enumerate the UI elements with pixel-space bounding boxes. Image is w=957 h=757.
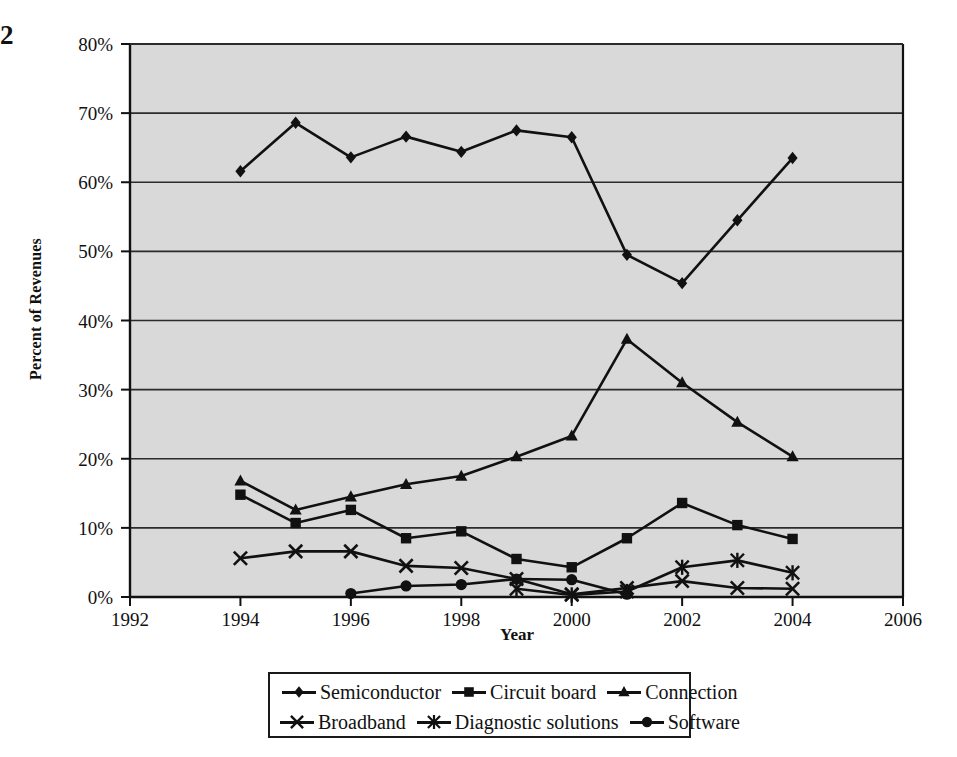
data-point-square: [235, 489, 245, 499]
data-point-square: [622, 533, 632, 543]
legend-row: BroadbandDiagnostic solutionsSoftware: [276, 707, 683, 737]
marker-circle: [400, 580, 411, 591]
y-axis-tick-label: 20%: [37, 450, 113, 469]
data-point-square: [464, 687, 474, 697]
line-chart: Percent of Revenues Year 0%10%20%30%40%5…: [0, 0, 957, 757]
data-point-circle: [400, 580, 411, 591]
legend-marker-diamond-icon: [282, 684, 316, 700]
legend-label: Circuit board: [490, 682, 596, 702]
data-point-square: [401, 533, 411, 543]
marker-square: [511, 554, 521, 564]
data-point-cross: [291, 716, 303, 728]
legend-key-cross-icon: [280, 714, 314, 730]
legend-row: SemiconductorCircuit boardConnection: [276, 677, 683, 707]
marker-circle: [511, 573, 522, 584]
legend-item-diagnostic-solutions: Diagnostic solutions: [417, 712, 619, 732]
legend-marker-cross-icon: [280, 714, 314, 730]
data-point-asterisk: [428, 715, 440, 729]
x-axis-tick-label: 1996: [311, 610, 391, 629]
legend-label: Diagnostic solutions: [455, 712, 619, 732]
legend-marker-triangle-icon: [607, 684, 641, 700]
data-point-square: [567, 562, 577, 572]
marker-square: [401, 533, 411, 543]
legend-label: Semiconductor: [320, 682, 441, 702]
y-axis-tick-label: 0%: [37, 588, 113, 607]
data-point-square: [677, 498, 687, 508]
legend-marker-circle-icon: [630, 714, 664, 730]
marker-diamond: [294, 686, 303, 697]
y-axis-tick-label: 40%: [37, 312, 113, 331]
legend-key-diamond-icon: [282, 684, 316, 700]
marker-square: [456, 526, 466, 536]
legend-item-software: Software: [630, 712, 740, 732]
data-point-square: [346, 505, 356, 515]
data-point-circle: [642, 717, 652, 727]
legend-item-circuit-board: Circuit board: [452, 682, 596, 702]
data-point-square: [787, 534, 797, 544]
marker-square: [464, 687, 474, 697]
figure-root: 2 Percent of Revenues Year 0%10%20%30%40…: [0, 0, 957, 757]
marker-square: [787, 534, 797, 544]
data-point-circle: [456, 579, 467, 590]
data-point-triangle: [619, 686, 630, 696]
marker-square: [732, 520, 742, 530]
x-axis-tick-label: 2004: [753, 610, 833, 629]
data-point-circle: [511, 573, 522, 584]
marker-square: [346, 505, 356, 515]
legend-item-connection: Connection: [607, 682, 737, 702]
data-point-square: [511, 554, 521, 564]
legend-key-asterisk-icon: [417, 714, 451, 730]
data-point-square: [456, 526, 466, 536]
data-point-diamond: [294, 686, 303, 697]
marker-square: [622, 533, 632, 543]
chart-legend: SemiconductorCircuit boardConnection Bro…: [268, 672, 691, 738]
x-axis-tick-label: 1998: [421, 610, 501, 629]
legend-item-semiconductor: Semiconductor: [282, 682, 441, 702]
legend-key-square-icon: [452, 684, 486, 700]
x-axis-tick-label: 1992: [90, 610, 170, 629]
y-axis-tick-label: 10%: [37, 519, 113, 538]
x-axis-tick-label: 2000: [532, 610, 612, 629]
marker-circle: [621, 589, 632, 600]
data-point-circle: [621, 589, 632, 600]
marker-square: [567, 562, 577, 572]
data-point-square: [290, 518, 300, 528]
y-axis-tick-label: 50%: [37, 242, 113, 261]
legend-key-triangle-icon: [607, 684, 641, 700]
marker-triangle: [619, 686, 630, 696]
marker-circle: [566, 574, 577, 585]
y-axis-tick-label: 60%: [37, 173, 113, 192]
marker-square: [235, 489, 245, 499]
marker-circle: [642, 717, 652, 727]
x-axis-tick-label: 1994: [200, 610, 280, 629]
marker-circle: [345, 588, 356, 599]
y-axis-tick-label: 70%: [37, 104, 113, 123]
y-axis-tick-label: 30%: [37, 381, 113, 400]
y-axis-tick-label: 80%: [37, 35, 113, 54]
legend-marker-asterisk-icon: [417, 714, 451, 730]
legend-key-circle-icon: [630, 714, 664, 730]
legend-item-broadband: Broadband: [280, 712, 406, 732]
data-point-circle: [345, 588, 356, 599]
legend-label: Software: [668, 712, 740, 732]
data-point-circle: [566, 574, 577, 585]
x-axis-tick-label: 2002: [642, 610, 722, 629]
marker-circle: [456, 579, 467, 590]
y-axis-title: Percent of Revenues: [27, 209, 45, 409]
legend-marker-square-icon: [452, 684, 486, 700]
legend-label: Broadband: [318, 712, 406, 732]
data-point-square: [732, 520, 742, 530]
marker-square: [677, 498, 687, 508]
marker-square: [290, 518, 300, 528]
x-axis-tick-label: 2006: [863, 610, 943, 629]
legend-label: Connection: [645, 682, 737, 702]
